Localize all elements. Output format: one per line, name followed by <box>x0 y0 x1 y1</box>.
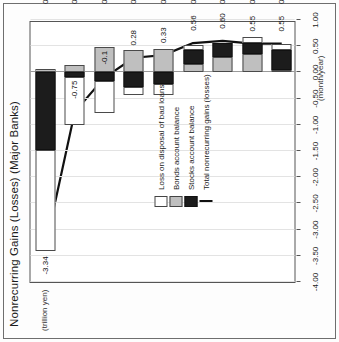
bar-group <box>212 22 232 282</box>
legend-label: Bonds account balance <box>171 107 180 190</box>
legend-item[interactable]: Bonds account balance <box>168 74 183 207</box>
data-point-label: 0.56 <box>188 15 197 31</box>
x-axis-tick-label: 03/10 <box>70 0 79 4</box>
y-axis-tick-mark <box>296 255 300 256</box>
legend-item[interactable]: Stocks account balance <box>183 74 198 207</box>
rotated-figure-wrapper: Nonrecurring Gains (Losses) (Major Banks… <box>0 0 339 342</box>
x-axis-tick-label: 03/13 <box>159 0 168 4</box>
data-point-label: -0.1 <box>99 51 108 65</box>
y-axis-tick-mark <box>296 202 300 203</box>
bar-group <box>242 22 262 282</box>
data-point-label: 0.60 <box>218 13 227 29</box>
legend-swatch-bonds <box>169 196 182 207</box>
bar-segment-loss <box>242 37 262 43</box>
y-axis-tick-mark <box>296 281 300 282</box>
bar-segment-bonds <box>271 70 291 73</box>
bar-segment-loss <box>35 150 55 251</box>
bar-segment-stocks <box>183 50 203 64</box>
data-point-label: 0.55 <box>277 16 286 32</box>
x-axis-tick-label: 03/9 <box>40 0 49 4</box>
bar-group <box>123 22 143 282</box>
data-point-label: -0.75 <box>70 81 79 99</box>
legend-label: Loss on disposal of bad loans <box>156 85 165 190</box>
x-axis-tick-label: 03/16 <box>247 0 256 4</box>
legend-label: Stocks account balance <box>186 106 195 191</box>
chart-legend: Loss on disposal of bad loansBonds accou… <box>153 74 213 207</box>
bar-segment-loss <box>94 81 114 112</box>
legend-label: Total nonrecurring gains (losses) <box>201 74 210 190</box>
bar-group <box>35 22 55 282</box>
y-axis-tick-mark <box>296 19 300 20</box>
y-axis-tick-mark <box>296 71 300 72</box>
bar-segment-stocks <box>35 72 55 150</box>
bar-group <box>64 22 84 282</box>
x-axis-tick-label: 03/15 <box>218 0 227 4</box>
bar-segment-stocks <box>271 50 291 70</box>
x-axis-tick-label: 03/12 <box>129 0 138 4</box>
data-point-label: 0.28 <box>129 30 138 46</box>
chart-title: Nonrecurring Gains (Losses) (Major Banks… <box>7 101 19 327</box>
y-axis-tick-mark <box>296 229 300 230</box>
y-axis-unit-label: (trillion yen) <box>39 290 48 331</box>
legend-swatch-loss <box>154 196 167 207</box>
bar-segment-stocks <box>94 72 114 81</box>
y-axis-tick-mark <box>296 150 300 151</box>
data-point-label: 0.55 <box>247 16 256 32</box>
y-axis-tick-mark <box>296 45 300 46</box>
bar-segment-loss <box>271 44 291 50</box>
data-point-label: -3.34 <box>40 256 49 274</box>
bar-segment-bonds <box>183 64 203 72</box>
bar-segment-bonds <box>64 65 84 72</box>
bar-segment-bonds <box>153 49 173 73</box>
data-point-label: 0.33 <box>159 27 168 43</box>
chart-figure: Nonrecurring Gains (Losses) (Major Banks… <box>3 3 336 339</box>
y-axis-tick-mark <box>296 124 300 125</box>
legend-swatch-stocks <box>184 196 197 207</box>
x-axis-tick-label: 03/17 <box>277 0 286 4</box>
bar-segment-loss <box>183 45 203 51</box>
y-axis-tick-label: -4.00 <box>310 258 319 306</box>
bar-segment-bonds <box>123 50 143 72</box>
y-axis-tick-mark <box>296 176 300 177</box>
bar-group <box>271 22 291 282</box>
bar-segment-loss <box>123 87 143 95</box>
x-axis-tick-label: 03/14 <box>188 0 197 4</box>
bar-segment-bonds <box>212 57 232 73</box>
bar-segment-bonds <box>242 54 262 73</box>
bar-segment-stocks <box>123 72 143 86</box>
bar-segment-stocks <box>242 43 262 53</box>
y-axis-tick-mark <box>296 98 300 99</box>
legend-swatch-total <box>199 196 212 207</box>
figure-page: Nonrecurring Gains (Losses) (Major Banks… <box>0 0 339 342</box>
bar-segment-stocks <box>212 43 232 57</box>
legend-item[interactable]: Loss on disposal of bad loans <box>153 74 168 207</box>
legend-item[interactable]: Total nonrecurring gains (losses) <box>198 74 213 207</box>
x-axis-tick-label: 03/11 <box>99 0 108 4</box>
